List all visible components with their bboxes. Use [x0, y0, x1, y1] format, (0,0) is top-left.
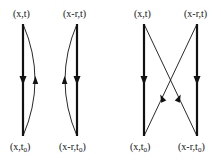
arrowhead-up-icon — [158, 93, 166, 103]
arrowhead-down-icon — [194, 76, 201, 85]
label-bottom-x-t0-right: (x,t0) — [130, 142, 150, 154]
arrowhead-up-icon — [62, 76, 68, 84]
label-bottom-x-r-t0-left: (x-r,t0) — [59, 142, 86, 154]
arrowhead-down-icon — [141, 76, 148, 85]
label-top-x-r-t-left: (x-r,t) — [63, 9, 86, 19]
arrowhead-up-icon — [33, 76, 39, 84]
right-panel — [141, 24, 201, 136]
label-close: ) — [201, 141, 204, 152]
label-top-x-t-left: (x,t) — [13, 9, 30, 19]
diagram-canvas — [0, 0, 221, 163]
label-top-x-r-t-right: (x-r,t) — [184, 9, 207, 19]
label-base: (x,t — [10, 141, 24, 152]
label-top-x-t-right: (x,t) — [134, 9, 151, 19]
arrowhead-up-icon — [175, 93, 183, 103]
left-panel — [20, 24, 81, 136]
label-base: (x-r,t — [178, 141, 198, 152]
label-base: (x-r,t — [59, 141, 79, 152]
label-close: ) — [27, 141, 30, 152]
arrowhead-down-icon — [74, 76, 81, 85]
arrowhead-down-icon — [20, 76, 27, 85]
label-close: ) — [82, 141, 85, 152]
label-close: ) — [147, 141, 150, 152]
label-base: (x,t — [130, 141, 144, 152]
label-bottom-x-t0-left: (x,t0) — [10, 142, 30, 154]
label-bottom-x-r-t0-right: (x-r,t0) — [178, 142, 205, 154]
